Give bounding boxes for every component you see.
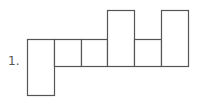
face-2	[55, 40, 82, 67]
face-6-tall	[162, 11, 189, 67]
prism-net-diagram	[0, 0, 207, 104]
face-5	[135, 40, 162, 67]
face-left-tall	[28, 40, 55, 96]
face-3	[82, 40, 108, 67]
face-4-tall	[108, 11, 135, 67]
